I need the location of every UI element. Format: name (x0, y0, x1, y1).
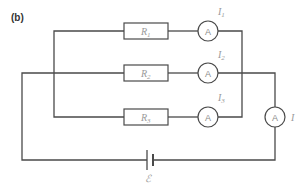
wire-main-return (153, 127, 275, 160)
current-i3-label: I3 (217, 92, 225, 105)
wire-a2-main (218, 73, 275, 107)
current-i2-label: I2 (217, 49, 225, 62)
current-i1-label: I1 (217, 6, 225, 19)
svg-text:A: A (272, 113, 278, 123)
wires (22, 31, 275, 160)
svg-text:A: A (205, 69, 211, 79)
svg-text:A: A (205, 27, 211, 37)
ammeter-a1: A I1 (198, 6, 225, 41)
ammeter-main: A I (265, 107, 295, 127)
resistor-r2: R2 (124, 65, 168, 81)
svg-text:A: A (205, 113, 211, 123)
resistor-r1: R1 (124, 23, 168, 39)
current-i-label: I (290, 112, 295, 123)
ammeter-a2: A I2 (198, 49, 225, 83)
circuit-diagram: R1 R2 R3 A I1 A I2 A I3 A I ℰ (0, 0, 305, 189)
cell-battery: ℰ (145, 150, 153, 184)
emf-label: ℰ (145, 173, 152, 184)
resistor-r3: R3 (124, 109, 168, 125)
ammeter-a3: A I3 (198, 92, 225, 127)
wire-left-bus (54, 31, 124, 117)
